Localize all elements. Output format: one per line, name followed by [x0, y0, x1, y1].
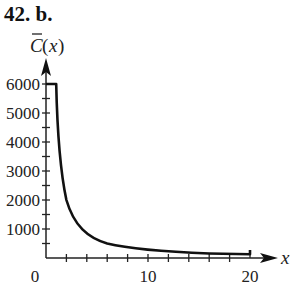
y-axis-label: C ( x )	[30, 34, 64, 57]
y-tick-label: 3000	[6, 162, 40, 181]
y-tick-label: 2000	[6, 191, 40, 210]
y-tick-label: 1000	[6, 220, 40, 239]
y-tick-label: 5000	[6, 104, 40, 123]
svg-text:x: x	[48, 35, 58, 56]
svg-text:): )	[58, 35, 64, 57]
y-tick-label: 4000	[6, 133, 40, 152]
x-axis-label: x	[280, 247, 290, 268]
chart: C ( x ) 1000 2000 30	[0, 0, 298, 303]
x-tick-label: 10	[140, 267, 157, 286]
x-tick-label: 0	[31, 267, 40, 286]
svg-text:(: (	[42, 35, 48, 57]
average-cost-curve	[46, 84, 250, 254]
y-tick-label: 6000	[6, 75, 40, 94]
x-tick-label: 20	[242, 267, 259, 286]
